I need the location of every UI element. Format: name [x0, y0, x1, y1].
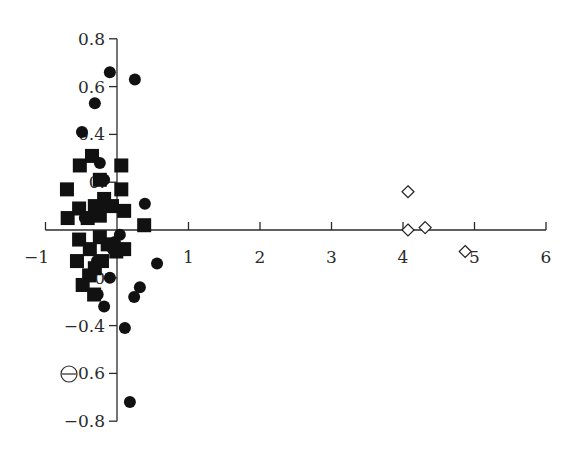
y-tick-label: −0.4	[64, 316, 105, 336]
scatter-chart: −11234560.80.60.40.−0−0.4−0.6−0.8	[0, 0, 576, 454]
x-tick-label: 5	[469, 247, 480, 267]
x-tick-label: 2	[255, 247, 266, 267]
circle-marker	[98, 300, 110, 312]
circle-marker	[91, 255, 103, 267]
circle-marker	[79, 212, 91, 224]
circle-marker	[98, 174, 110, 186]
y-tick-label: 0.6	[78, 77, 105, 97]
circle-marker	[94, 157, 106, 169]
circle-marker	[92, 289, 104, 301]
circle-marker	[100, 200, 112, 212]
circle-marker	[151, 257, 163, 269]
x-tick-label: 4	[398, 247, 409, 267]
y-tick-label: 0.8	[78, 29, 105, 49]
x-tick-label: −1	[24, 247, 49, 267]
square-marker	[73, 158, 87, 172]
y-tick-label: −0.8	[64, 411, 105, 431]
square-marker	[117, 204, 131, 218]
square-marker	[114, 182, 128, 196]
circle-marker	[76, 126, 88, 138]
x-tick-label: 1	[183, 247, 194, 267]
data-points	[60, 66, 471, 408]
circle-marker	[124, 396, 136, 408]
circle-marker	[128, 291, 140, 303]
circle-marker	[129, 73, 141, 85]
circle-marker	[104, 272, 116, 284]
circle-marker	[104, 66, 116, 78]
square-marker	[114, 158, 128, 172]
x-tick-label: 6	[541, 247, 552, 267]
square-marker	[137, 218, 151, 232]
square-marker	[60, 182, 74, 196]
diamond-marker	[402, 186, 414, 198]
x-tick-label: 3	[326, 247, 337, 267]
square-marker	[70, 254, 84, 268]
circle-marker	[107, 243, 119, 255]
circle-marker	[89, 97, 101, 109]
circle-marker	[139, 198, 151, 210]
circle-marker	[119, 322, 131, 334]
square-marker	[83, 242, 97, 256]
diamond-marker	[419, 222, 431, 234]
diamond-marker	[402, 224, 414, 236]
